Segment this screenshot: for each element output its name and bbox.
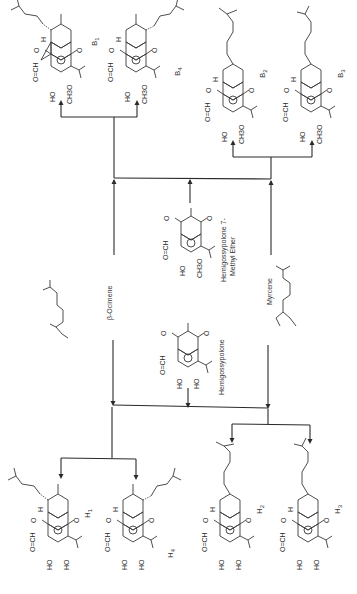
reactant-label-hgme-line2: Methyl Ether: [229, 236, 237, 276]
compound-label-H1: H1: [83, 508, 93, 518]
hydroxyl-label: HO: [63, 559, 70, 570]
carbonyl-oxygen: O: [151, 47, 158, 53]
hydroxyl-label: HO: [49, 91, 56, 102]
carbonyl-oxygen: O: [163, 215, 170, 221]
hydroxyl-label: HO: [121, 559, 128, 570]
hydroxyl-label: HO: [138, 559, 145, 570]
carbonyl-oxygen: O: [245, 517, 252, 523]
hydrogen-label: H: [115, 37, 122, 42]
reaction-scheme: O O H O=CH HO CH3O B1 O O H O=CH HO CH3O…: [0, 0, 357, 594]
carbonyl-oxygen: O: [203, 330, 210, 336]
hydrogen-label: H: [112, 507, 119, 512]
hydroxyl-label: HO: [176, 378, 183, 389]
reactant-label-hgme-line1: Hemigossypolone 7-: [220, 218, 228, 282]
methoxy-label: CH3O: [66, 84, 73, 104]
hydroxyl-label: HO: [46, 559, 53, 570]
compound-H2: O O H O=CH HO HO H2: [201, 442, 265, 570]
compound-label-H2: H2: [255, 504, 265, 514]
aldehyde-label: O=CH: [104, 532, 111, 552]
aldehyde-label: O=CH: [32, 62, 39, 82]
reactant-hemigossypolone-methyl-ether: O O O=CH HO CH3O Hemigossypolone 7- Meth…: [162, 208, 237, 282]
compound-H4: O O H O=CH HO HO H4: [104, 468, 181, 570]
methoxy-label: CH3O: [196, 258, 203, 278]
carbonyl-oxygen: O: [33, 47, 40, 53]
carbonyl-oxygen: O: [76, 47, 83, 53]
hydrogen-label: H: [209, 507, 216, 512]
carbonyl-oxygen: O: [108, 47, 115, 53]
aldehyde-label: O=CH: [162, 240, 169, 260]
reactant-label-hemigossypolone: Hemigossypolone: [218, 339, 226, 395]
compound-label-B4: B4: [173, 67, 183, 76]
reactant-ocimene: β-Ocimene: [43, 280, 114, 338]
hydrogen-label: H: [290, 77, 297, 82]
hydroxyl-label: HO: [235, 559, 242, 570]
reactant-hemigossypolone: O O O=CH HO HO Hemigossypolone: [159, 323, 226, 395]
compound-label-B3: B3: [336, 69, 346, 78]
compound-label-H3: H3: [333, 504, 343, 514]
aldehyde-label: O=CH: [29, 532, 36, 552]
aldehyde-label: O=CH: [279, 532, 286, 552]
carbonyl-oxygen: O: [206, 215, 213, 221]
reactant-label-myrcene: Myrcene: [266, 278, 274, 305]
carbonyl-oxygen: O: [73, 517, 80, 523]
compound-label-H4: H4: [166, 548, 176, 558]
compound-B1: O O H O=CH HO CH3O B1: [11, 0, 100, 104]
aldehyde-label: O=CH: [204, 102, 211, 122]
hydrogen-label: H: [40, 37, 47, 42]
methoxy-label: CH3O: [238, 124, 245, 144]
hydroxyl-label: HO: [179, 265, 186, 276]
carbonyl-oxygen: O: [30, 517, 37, 523]
hydroxyl-label: HO: [299, 131, 306, 142]
hydroxyl-label: HO: [124, 91, 131, 102]
hydroxyl-label: HO: [218, 559, 225, 570]
aldehyde-label: O=CH: [107, 62, 114, 82]
carbonyl-oxygen: O: [148, 517, 155, 523]
aldehyde-label: O=CH: [159, 355, 166, 375]
compound-B2: O O H O=CH HO CH3O B2: [204, 8, 268, 144]
hydroxyl-label: HO: [296, 559, 303, 570]
aldehyde-label: O=CH: [201, 532, 208, 552]
compound-H1: O O H O=CH HO HO H1: [8, 468, 93, 570]
compound-B4: O O H O=CH HO CH3O B4: [107, 0, 184, 104]
compound-label-B1: B1: [90, 37, 100, 46]
carbonyl-oxygen: O: [280, 517, 287, 523]
carbonyl-oxygen: O: [326, 87, 333, 93]
carbonyl-oxygen: O: [205, 87, 212, 93]
connector-lines: [59, 100, 315, 480]
compound-H3: O O H O=CH HO HO H3: [279, 438, 343, 570]
hydrogen-label: H: [212, 77, 219, 82]
reactant-label-ocimene: β-Ocimene: [106, 286, 114, 320]
carbonyl-oxygen: O: [160, 330, 167, 336]
hydroxyl-label: HO: [221, 131, 228, 142]
carbonyl-oxygen: O: [202, 517, 209, 523]
compound-B3: O O H O=CH HO CH3O B3: [282, 6, 346, 144]
hydrogen-label: H: [37, 507, 44, 512]
hydroxyl-label: HO: [313, 559, 320, 570]
compound-label-B2: B2: [258, 69, 268, 78]
carbonyl-oxygen: O: [105, 517, 112, 523]
hydroxyl-label: HO: [193, 378, 200, 389]
aldehyde-label: O=CH: [282, 102, 289, 122]
carbonyl-oxygen: O: [323, 517, 330, 523]
hydrogen-label: H: [287, 507, 294, 512]
methoxy-label: CH3O: [141, 84, 148, 104]
methoxy-label: CH3O: [316, 124, 323, 144]
reactant-myrcene: Myrcene: [266, 266, 296, 326]
carbonyl-oxygen: O: [283, 87, 290, 93]
carbonyl-oxygen: O: [248, 87, 255, 93]
